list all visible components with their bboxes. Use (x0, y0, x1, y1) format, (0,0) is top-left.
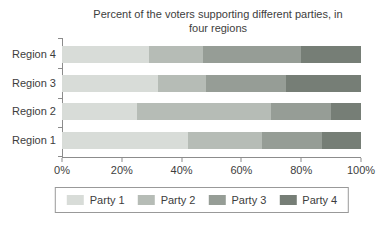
y-axis-tick (58, 98, 62, 99)
stacked-bar-chart: Percent of the voters supporting differe… (0, 0, 387, 226)
legend-item-party-2: Party 2 (138, 194, 196, 206)
bar-segment (262, 132, 322, 149)
bar-segment (271, 103, 331, 120)
x-tick-label: 0% (54, 164, 70, 176)
legend-label: Party 3 (232, 194, 267, 206)
party-2-swatch-icon (138, 195, 155, 205)
legend-item-party-1: Party 1 (67, 194, 125, 206)
party-4-swatch-icon (279, 195, 296, 205)
x-tick-mark (62, 158, 63, 162)
x-tick-label: 80% (290, 164, 312, 176)
y-axis-label-region-2: Region 2 (0, 103, 56, 120)
x-axis-line: 0% 20% 40% 60% 80% 100% (62, 157, 361, 158)
x-tick-mark (361, 158, 362, 162)
x-tick-label: 100% (347, 164, 375, 176)
bar-region-1 (62, 132, 361, 149)
bar-segment (206, 75, 287, 92)
bar-segment (62, 75, 158, 92)
bar-segment (203, 46, 302, 63)
party-3-swatch-icon (209, 195, 226, 205)
y-axis-label-region-4: Region 4 (0, 46, 56, 63)
bar-region-3 (62, 75, 361, 92)
legend-label: Party 1 (90, 194, 125, 206)
bar-region-4 (62, 46, 361, 63)
legend-item-party-4: Party 4 (279, 194, 337, 206)
legend-label: Party 2 (161, 194, 196, 206)
x-tick-mark (121, 158, 122, 162)
y-axis-tick (58, 127, 62, 128)
bar-segment (188, 132, 263, 149)
y-axis-tick (58, 38, 62, 39)
x-tick-label: 40% (171, 164, 193, 176)
bar-segment (149, 46, 203, 63)
party-1-swatch-icon (67, 195, 84, 205)
legend: Party 1 Party 2 Party 3 Party 4 (55, 187, 349, 213)
legend-item-party-3: Party 3 (209, 194, 267, 206)
bar-segment (322, 132, 361, 149)
bar-segment (301, 46, 361, 63)
bar-segment (62, 132, 188, 149)
bar-region-2 (62, 103, 361, 120)
bar-segment (286, 75, 361, 92)
x-tick-mark (241, 158, 242, 162)
y-axis-tick (58, 68, 62, 69)
legend-label: Party 4 (302, 194, 337, 206)
x-tick-label: 60% (230, 164, 252, 176)
y-axis-label-region-1: Region 1 (0, 132, 56, 149)
x-tick-mark (301, 158, 302, 162)
bar-segment (62, 46, 149, 63)
x-tick-mark (181, 158, 182, 162)
bar-segment (331, 103, 361, 120)
y-axis-label-region-3: Region 3 (0, 75, 56, 92)
x-tick-label: 20% (111, 164, 133, 176)
bar-segment (62, 103, 137, 120)
chart-title: Percent of the voters supporting differe… (92, 7, 344, 36)
bar-segment (137, 103, 272, 120)
bar-segment (158, 75, 206, 92)
